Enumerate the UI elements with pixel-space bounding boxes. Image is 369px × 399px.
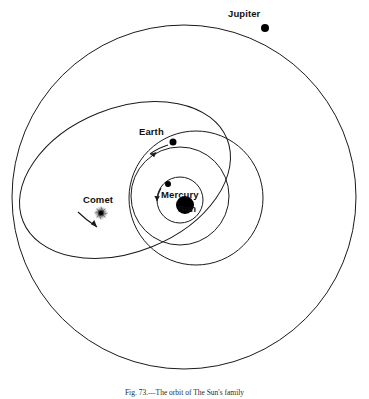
earth-body bbox=[170, 139, 177, 146]
jupiter-body bbox=[261, 24, 269, 32]
label-comet: Comet bbox=[83, 194, 113, 205]
solar-system-figure: Jupiter Earth Mercury Sun Comet Fig. 73.… bbox=[0, 0, 369, 399]
comet-body bbox=[95, 207, 108, 220]
comet-orbit-path bbox=[0, 72, 254, 288]
label-sun: Sun bbox=[178, 203, 196, 214]
label-jupiter: Jupiter bbox=[228, 8, 260, 19]
mercury-direction-arrow bbox=[154, 188, 161, 201]
figure-caption: Fig. 73.—The orbit of The Sun's family bbox=[0, 388, 369, 399]
label-mercury: Mercury bbox=[161, 189, 199, 200]
label-earth: Earth bbox=[139, 126, 164, 137]
mercury-body bbox=[165, 181, 171, 187]
comet-direction-arrow bbox=[78, 212, 97, 227]
